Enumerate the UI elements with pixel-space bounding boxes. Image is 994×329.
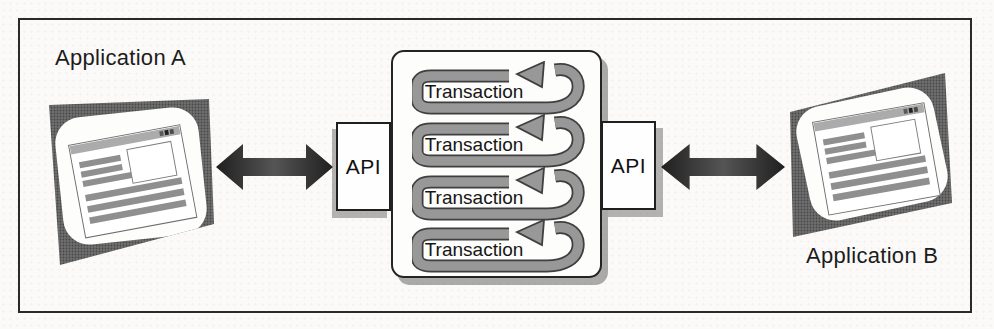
api-right-label: API <box>611 154 646 178</box>
transaction-label: Transaction <box>422 187 526 209</box>
application-b-label: Application B <box>806 243 938 269</box>
transaction-label: Transaction <box>422 239 526 261</box>
transaction-row: Transaction <box>412 114 587 172</box>
application-a-browser-window-icon <box>44 94 220 270</box>
transaction-label: Transaction <box>422 81 526 103</box>
application-a-label: Application A <box>55 45 186 71</box>
api-box-right: API <box>601 121 656 210</box>
transaction-row: Transaction <box>412 167 587 225</box>
api-left-label: API <box>346 155 381 179</box>
bidirectional-arrow-left-icon <box>216 144 333 190</box>
api-box-left: API <box>336 122 391 211</box>
transaction-row: Transaction <box>412 219 587 277</box>
diagram-canvas: Application A API Transaction Transactio… <box>0 0 994 329</box>
application-b-browser-window-icon <box>782 64 958 244</box>
transaction-row: Transaction <box>412 61 587 119</box>
bidirectional-arrow-right-icon <box>661 144 785 190</box>
transaction-label: Transaction <box>422 134 526 156</box>
